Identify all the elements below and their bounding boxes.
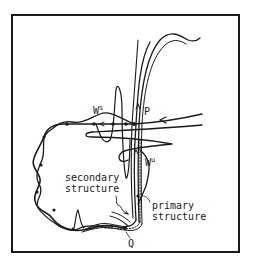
- secondary-line2: structure: [65, 184, 119, 194]
- wu-sup: u: [151, 156, 155, 164]
- primary-line2: structure: [152, 212, 206, 222]
- label-wu: Wu: [145, 158, 155, 169]
- wu-arrow-up: [136, 104, 140, 109]
- label-q: Q: [128, 239, 134, 249]
- homoclinic-tangle-diagram: [0, 0, 253, 263]
- label-p: P: [144, 107, 150, 117]
- ws-fold-wave: [96, 86, 130, 178]
- label-secondary-structure: secondary structure: [65, 173, 119, 194]
- primary-line1: primary: [152, 201, 206, 211]
- ws-sup: s: [99, 104, 103, 112]
- secondary-line1: secondary: [65, 173, 119, 183]
- unstable-manifold-wu-3: [141, 41, 186, 225]
- bottom-spike: [74, 210, 84, 228]
- fold-upper: [86, 125, 202, 161]
- label-primary-structure: primary structure: [152, 201, 206, 222]
- primary-pointer: [142, 196, 150, 202]
- label-ws: Ws: [93, 106, 103, 117]
